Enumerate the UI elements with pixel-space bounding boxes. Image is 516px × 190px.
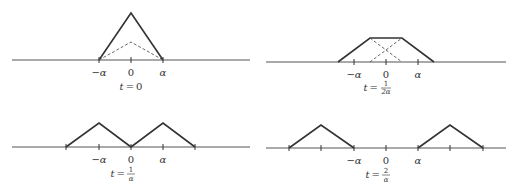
- svg-text:2α: 2α: [380, 88, 390, 96]
- caption-t-half-over-alpha: t= 1 2α: [364, 80, 391, 96]
- label-pos-alpha: α: [160, 154, 167, 165]
- wave-propagation-diagram: −α 0 α t=0 −α 0 α t= 1 2α −α: [0, 0, 516, 190]
- label-pos-alpha: α: [160, 67, 167, 78]
- svg-text:α: α: [129, 175, 134, 183]
- caption-t-one-over-alpha: t= 1 α: [111, 166, 135, 183]
- panel-t-half-over-alpha: −α 0 α t= 1 2α: [266, 38, 506, 96]
- label-pos-alpha: α: [415, 155, 422, 166]
- svg-text:t=: t=: [366, 169, 380, 180]
- label-neg-alpha: −α: [346, 69, 361, 80]
- label-zero: 0: [128, 154, 134, 165]
- right-moving-triangle: [131, 123, 195, 147]
- panel-t-0: −α 0 α t=0: [12, 13, 250, 92]
- panel-t-one-over-alpha: −α 0 α t= 1 α: [12, 123, 250, 183]
- label-pos-alpha: α: [415, 69, 422, 80]
- svg-text:t=: t=: [111, 168, 125, 179]
- label-zero: 0: [128, 67, 134, 78]
- svg-text:1: 1: [384, 80, 388, 88]
- svg-text:2: 2: [384, 167, 388, 175]
- svg-text:t=: t=: [364, 82, 378, 93]
- caption-t-two-over-alpha: t= 2 α: [366, 167, 390, 184]
- label-neg-alpha: −α: [346, 155, 361, 166]
- label-neg-alpha: −α: [91, 154, 106, 165]
- panel-t-two-over-alpha: −α 0 α t= 2 α: [266, 125, 506, 184]
- right-moving-triangle: [418, 125, 483, 148]
- caption-t-0: t=0: [120, 81, 143, 92]
- left-moving-triangle: [289, 125, 354, 148]
- label-zero: 0: [383, 69, 389, 80]
- svg-text:α: α: [384, 176, 389, 184]
- left-moving-triangle: [66, 123, 131, 147]
- solid-triangle-sum: [99, 13, 163, 60]
- label-zero: 0: [383, 155, 389, 166]
- label-neg-alpha: −α: [91, 67, 106, 78]
- svg-text:1: 1: [129, 166, 133, 174]
